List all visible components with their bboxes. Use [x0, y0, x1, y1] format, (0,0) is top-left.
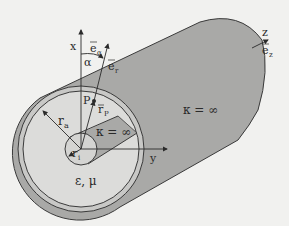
coaxial-cable-diagram: x y z e α e r e z α P r P r a r i κ = ∞ …: [0, 0, 289, 226]
kappa-inner-label: κ = ∞: [96, 125, 131, 139]
x-axis-label: x: [70, 40, 77, 53]
e-alpha-label: e α: [90, 42, 102, 57]
point-p-label: P: [83, 94, 91, 107]
alpha-label: α: [84, 56, 92, 69]
svg-text:e: e: [90, 42, 97, 55]
svg-text:a: a: [64, 121, 69, 130]
z-axis-label: z: [262, 26, 268, 39]
svg-text:P: P: [104, 110, 109, 118]
y-axis-label: y: [149, 152, 157, 165]
point-p: [92, 99, 96, 103]
svg-text:α: α: [97, 49, 102, 57]
diagram-canvas: x y z e α e r e z α P r P r a r i κ = ∞ …: [0, 0, 289, 226]
kappa-outer-label: κ = ∞: [183, 103, 218, 117]
svg-text:e: e: [108, 60, 115, 73]
dielectric-label: ε, μ: [75, 174, 97, 188]
svg-text:e: e: [262, 44, 269, 57]
e-z-label: e z: [262, 44, 273, 59]
svg-text:z: z: [269, 51, 273, 59]
